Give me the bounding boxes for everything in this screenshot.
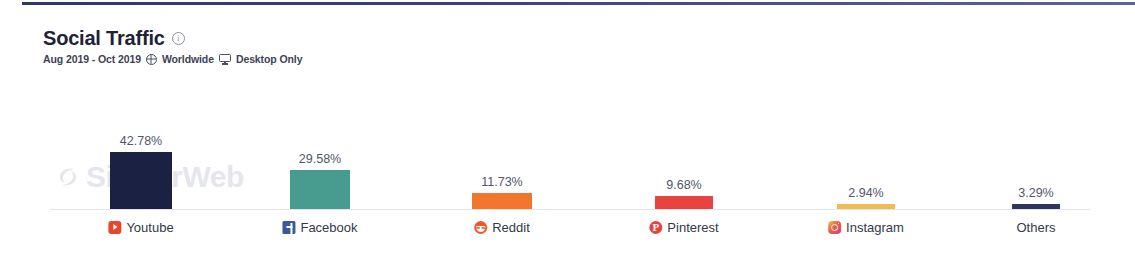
category-name: Youtube bbox=[126, 220, 173, 235]
bar-youtube[interactable] bbox=[110, 152, 172, 209]
facebook-icon bbox=[282, 221, 295, 234]
bar-instagram[interactable] bbox=[837, 204, 895, 209]
bar-reddit[interactable] bbox=[472, 193, 532, 209]
category-label-facebook[interactable]: Facebook bbox=[282, 220, 357, 235]
chart-baseline bbox=[50, 209, 1090, 210]
category-label-youtube[interactable]: Youtube bbox=[108, 220, 173, 235]
category-label-instagram[interactable]: Instagram bbox=[828, 220, 904, 235]
category-label-pinterest[interactable]: PPinterest bbox=[649, 220, 718, 235]
bar-value-instagram: 2.94% bbox=[848, 186, 883, 200]
category-name: Instagram bbox=[846, 220, 904, 235]
bar-value-youtube: 42.78% bbox=[120, 134, 162, 148]
bar-value-pinterest: 9.68% bbox=[666, 178, 701, 192]
bar-value-reddit: 11.73% bbox=[481, 175, 522, 189]
bar-chart: 42.78%Youtube29.58%Facebook11.73%Reddit9… bbox=[0, 0, 1135, 257]
category-label-others[interactable]: Others bbox=[1016, 220, 1055, 235]
bar-value-others: 3.29% bbox=[1018, 186, 1053, 200]
youtube-icon bbox=[108, 221, 121, 234]
category-name: Reddit bbox=[492, 220, 530, 235]
category-name: Facebook bbox=[300, 220, 357, 235]
pinterest-icon: P bbox=[649, 221, 662, 234]
reddit-icon bbox=[474, 221, 487, 234]
bar-pinterest[interactable] bbox=[655, 196, 713, 209]
bar-facebook[interactable] bbox=[290, 170, 350, 209]
bar-others[interactable] bbox=[1012, 204, 1060, 209]
category-name: Pinterest bbox=[667, 220, 718, 235]
social-traffic-card: Social Traffic i Aug 2019 - Oct 2019 Wor… bbox=[0, 0, 1135, 257]
category-name: Others bbox=[1016, 220, 1055, 235]
instagram-icon bbox=[828, 221, 841, 234]
category-label-reddit[interactable]: Reddit bbox=[474, 220, 530, 235]
bar-value-facebook: 29.58% bbox=[299, 152, 341, 166]
